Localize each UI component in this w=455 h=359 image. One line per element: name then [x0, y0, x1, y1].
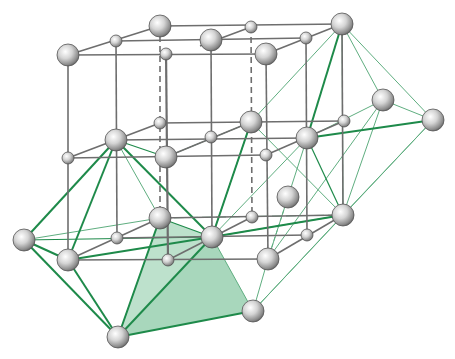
atom: [201, 226, 223, 248]
atom: [240, 111, 262, 133]
atom: [245, 21, 257, 33]
atom: [155, 146, 177, 168]
atom: [338, 115, 350, 127]
atom: [246, 211, 258, 223]
atom: [105, 129, 127, 151]
atom: [162, 254, 174, 266]
atom: [149, 15, 171, 37]
atom: [200, 29, 222, 51]
atom: [13, 229, 35, 251]
atom: [111, 232, 123, 244]
atom: [257, 248, 279, 270]
atom: [154, 117, 166, 129]
crystal-lattice-diagram: [0, 0, 455, 359]
atom: [107, 326, 129, 348]
atom: [332, 204, 354, 226]
atom: [110, 35, 122, 47]
lattice-svg: [0, 0, 455, 359]
atom: [242, 300, 264, 322]
atom: [149, 207, 171, 229]
atom: [372, 89, 394, 111]
atom: [422, 109, 444, 131]
atom: [301, 229, 313, 241]
atom: [300, 32, 312, 44]
atom: [260, 149, 272, 161]
atom: [331, 13, 353, 35]
atom: [255, 43, 277, 65]
atom: [277, 186, 299, 208]
atom: [62, 152, 74, 164]
atom: [296, 127, 318, 149]
atom: [205, 131, 217, 143]
atom: [57, 249, 79, 271]
atom: [57, 44, 79, 66]
atom: [160, 48, 172, 60]
